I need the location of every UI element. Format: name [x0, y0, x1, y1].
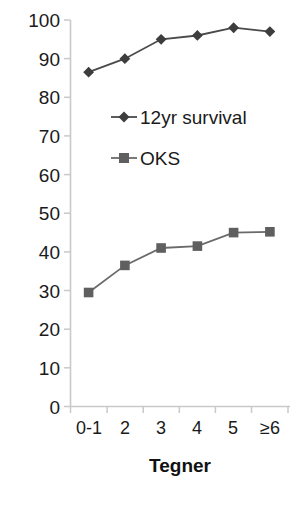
legend-entry-oks: OKS [111, 148, 180, 169]
legend-entry-12yr-survival: 12yr survival [111, 107, 247, 128]
data-point-oks [193, 241, 203, 251]
data-point-12yr-survival [83, 67, 94, 78]
legend-label-oks: OKS [140, 148, 180, 169]
data-point-oks [120, 261, 130, 271]
data-point-oks [229, 228, 239, 238]
x-tick-label-2: 2 [120, 418, 130, 438]
x-axis-tick-labels: 0-1 2 3 4 5 ≥6 [76, 418, 280, 438]
x-tick-label-5: 5 [228, 418, 238, 438]
diamond-marker-icon [119, 112, 130, 123]
line-chart: 100 90 80 70 60 50 40 30 20 10 0 0-1 2 3… [0, 0, 308, 506]
data-point-12yr-survival [264, 26, 275, 37]
x-axis-title: Tegner [149, 455, 212, 476]
data-point-oks [265, 227, 275, 237]
legend-label-12yr-survival: 12yr survival [140, 107, 247, 128]
y-tick-label-80: 80 [39, 87, 60, 108]
chart-container: 100 90 80 70 60 50 40 30 20 10 0 0-1 2 3… [0, 0, 308, 506]
x-tick-label-0-1: 0-1 [76, 418, 102, 438]
data-point-12yr-survival [192, 30, 203, 41]
series-oks-markers [84, 227, 275, 297]
chart-legend: 12yr survival OKS [111, 107, 247, 169]
x-tick-label-3: 3 [156, 418, 166, 438]
x-axis-ticks [71, 407, 289, 414]
y-axis-tick-labels: 100 90 80 70 60 50 40 30 20 10 0 [28, 10, 60, 418]
y-tick-label-20: 20 [39, 319, 60, 340]
y-tick-label-90: 90 [39, 49, 60, 70]
data-point-oks [84, 288, 94, 298]
y-tick-label-10: 10 [39, 358, 60, 379]
y-tick-label-70: 70 [39, 126, 60, 147]
square-marker-icon [119, 153, 129, 163]
series-oks-line [89, 232, 270, 293]
x-tick-label-ge6: ≥6 [260, 418, 280, 438]
y-tick-label-40: 40 [39, 242, 60, 263]
data-point-12yr-survival [119, 53, 130, 64]
series-oks [84, 227, 275, 297]
data-point-12yr-survival [156, 34, 167, 45]
x-tick-label-4: 4 [192, 418, 202, 438]
y-tick-label-50: 50 [39, 203, 60, 224]
series-12yr-survival-line [89, 28, 270, 72]
y-tick-label-30: 30 [39, 281, 60, 302]
y-tick-label-60: 60 [39, 165, 60, 186]
data-point-12yr-survival [228, 22, 239, 33]
series-12yr-survival-markers [83, 22, 275, 77]
data-point-oks [156, 243, 166, 253]
y-axis-ticks [64, 20, 71, 407]
y-tick-label-0: 0 [49, 397, 60, 418]
series-12yr-survival [83, 22, 275, 77]
y-tick-label-100: 100 [28, 10, 60, 31]
